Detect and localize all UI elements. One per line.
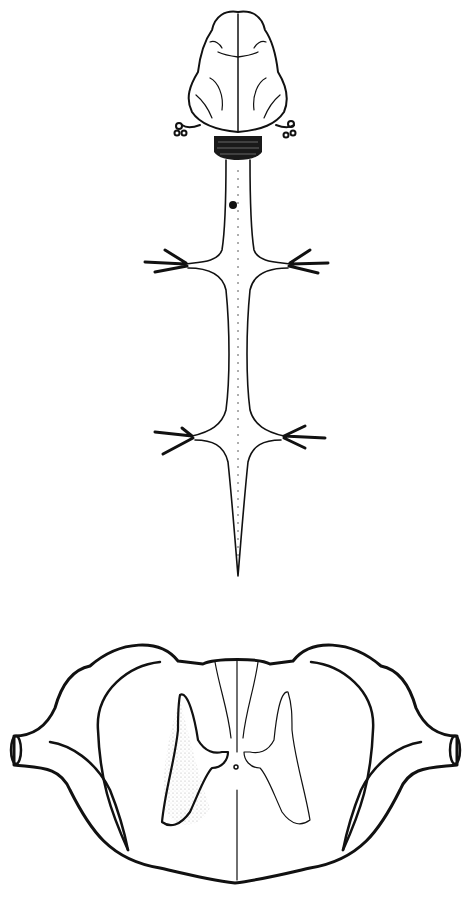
lesion-dot [229, 201, 237, 209]
limb-nerves [145, 250, 328, 454]
cranial-nerves [175, 121, 296, 138]
spinal-cord-dorsal [185, 160, 291, 576]
central-canal [234, 765, 238, 769]
spinal-cross-section [11, 645, 460, 883]
anatomy-figure [0, 0, 471, 903]
cerebellum [214, 136, 262, 160]
brain [189, 12, 287, 132]
